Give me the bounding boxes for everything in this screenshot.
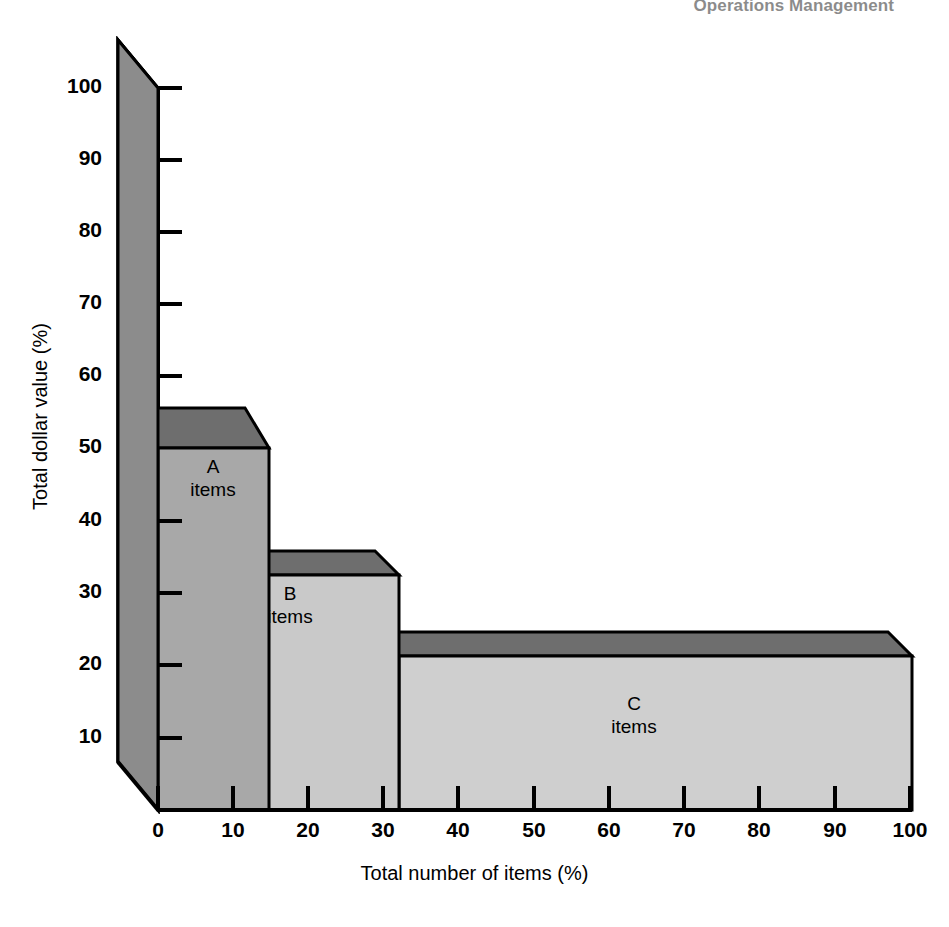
x-tick-label-20: 20 [278,818,338,842]
bar-label-a-letter: A [207,456,220,477]
x-tick-label-30: 30 [353,818,413,842]
x-axis-title: Total number of items (%) [0,862,949,885]
chart-graphic [0,0,949,927]
abc-analysis-chart: Operations Management [0,0,949,927]
bar-label-a-sublabel: items [190,479,235,500]
x-tick-label-40: 40 [428,818,488,842]
bar-label-c-sublabel: items [611,716,656,737]
x-tick-label-60: 60 [579,818,639,842]
bar-label-b-sublabel: items [267,606,312,627]
x-tick-label-100: 100 [880,818,940,842]
y-tick-label-70: 70 [42,290,102,314]
bar-c-top-face [375,632,912,656]
x-tick-label-10: 10 [203,818,263,842]
bar-label-c-letter: C [627,693,641,714]
y-tick-label-100: 100 [42,74,102,98]
x-tick-label-90: 90 [805,818,865,842]
bar-label-a: A items [163,455,263,501]
bar-label-b: B items [240,582,340,628]
bar-label-b-letter: B [284,583,297,604]
x-tick-label-50: 50 [504,818,564,842]
y-tick-label-80: 80 [42,218,102,242]
x-tick-label-0: 0 [128,818,188,842]
y-axis-slab-front [118,40,158,810]
x-tick-label-70: 70 [654,818,714,842]
bar-a-front-face [158,448,269,810]
y-tick-label-40: 40 [42,507,102,531]
x-tick-label-80: 80 [729,818,789,842]
y-tick-label-20: 20 [42,651,102,675]
y-tick-label-30: 30 [42,579,102,603]
y-tick-label-50: 50 [42,434,102,458]
y-tick-label-60: 60 [42,362,102,386]
bar-label-c: C items [584,692,684,738]
y-tick-label-10: 10 [42,724,102,748]
y-tick-label-90: 90 [42,146,102,170]
